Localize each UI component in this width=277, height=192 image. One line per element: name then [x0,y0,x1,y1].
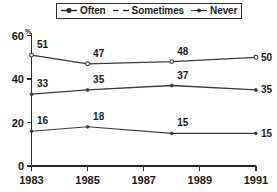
series-sometimes: 33 35 37 35 [30,70,272,96]
x-tick-label-1987: 1987 [131,174,155,186]
data-point-often-1988 [170,60,174,64]
y-axis-unit: % [25,28,32,35]
data-point-never-1991 [255,132,258,135]
line-chart: Often Sometimes Never [0,0,277,192]
y-tick-label-20: 20 [12,117,24,129]
value-label-never-1983: 16 [37,115,49,126]
value-label-never-1988: 15 [177,117,189,128]
series-line-often [32,55,256,64]
value-label-often-1991: 50 [261,52,273,63]
series-line-sometimes [32,86,256,95]
value-label-often-1988: 48 [177,46,189,57]
x-axis-ticks [32,166,256,171]
x-tick-label-1983: 1983 [19,174,43,186]
data-point-never-1983 [30,130,33,133]
value-label-never-1985: 18 [93,111,105,122]
plot-area: 60 % 40 20 0 1983 1985 1987 1989 1991 51… [0,0,277,192]
value-label-never-1991: 15 [261,128,273,139]
data-point-sometimes-1988 [170,84,173,87]
value-label-often-1983: 51 [37,39,49,50]
y-tick-label-40: 40 [12,73,24,85]
x-tick-label-1985: 1985 [75,174,99,186]
data-point-sometimes-1983 [30,93,33,96]
data-point-often-1985 [86,62,90,66]
data-point-never-1985 [86,125,89,128]
y-tick-label-60: 60 [12,30,24,42]
series-never: 16 18 15 15 [30,111,272,139]
data-point-sometimes-1985 [86,88,89,91]
data-point-never-1988 [170,132,173,135]
data-point-often-1983 [30,53,34,57]
x-tick-label-1991: 1991 [244,174,268,186]
series-line-never [32,127,256,134]
data-point-often-1991 [254,55,258,59]
value-label-sometimes-1991: 35 [261,84,273,95]
series-often: 51 47 48 50 [30,39,273,66]
value-label-sometimes-1988: 37 [177,70,189,81]
x-tick-label-1989: 1989 [188,174,212,186]
value-label-sometimes-1985: 35 [93,74,105,85]
data-point-sometimes-1991 [254,88,257,91]
value-label-often-1985: 47 [93,48,105,59]
value-label-sometimes-1983: 33 [37,78,49,89]
y-tick-label-0: 0 [18,160,24,172]
